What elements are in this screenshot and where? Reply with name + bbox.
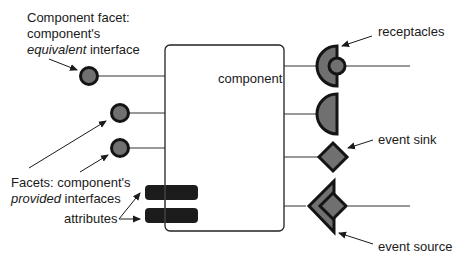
label-rest: interfaces — [61, 191, 121, 206]
equivalent-facet-icon — [81, 68, 98, 85]
label-line: component's — [27, 26, 140, 42]
label-line: Component facet: — [27, 10, 140, 26]
facets-label: Facets: component's provided interfaces — [11, 175, 131, 207]
receptacle-icon — [317, 94, 337, 134]
label-italic: equivalent — [27, 42, 86, 57]
event-source-label: event source — [378, 239, 452, 255]
component-label: component — [218, 71, 282, 87]
event-sink-icon — [319, 143, 347, 171]
receptacle-connected-icon — [317, 46, 345, 86]
provided-facet-icon — [112, 105, 129, 122]
label-rest: interface — [86, 42, 139, 57]
provided-facet-icon — [112, 140, 129, 157]
receptacles-label: receptacles — [378, 24, 444, 40]
label-line: provided interfaces — [11, 191, 131, 207]
attribute-icon — [145, 208, 198, 223]
attributes-label: attributes — [64, 211, 117, 227]
label-italic: provided — [11, 191, 61, 206]
label-line: equivalent interface — [27, 42, 140, 58]
attribute-icon — [145, 185, 198, 200]
component-facet-label: Component facet: component's equivalent … — [27, 10, 140, 58]
event-source-icon — [309, 181, 346, 232]
label-line: Facets: component's — [11, 175, 131, 191]
event-sink-label: event sink — [378, 132, 437, 148]
